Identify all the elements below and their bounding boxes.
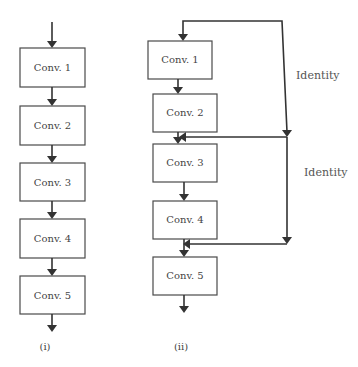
plain-block-2-label: Conv. 2 bbox=[34, 120, 71, 131]
residual-caption: (ii) bbox=[174, 341, 188, 352]
identity-label-1: Identity bbox=[296, 69, 340, 82]
arrow-3-4-head-icon bbox=[47, 212, 57, 219]
residual-network: Conv. 1 Conv. 2 Conv. 3 Conv. 4 Conv. 5 … bbox=[148, 21, 348, 352]
identity-label-2: Identity bbox=[304, 166, 348, 179]
res-output-arrow-head-icon bbox=[179, 306, 189, 313]
plain-block-3-label: Conv. 3 bbox=[34, 177, 71, 188]
identity-skip-1-down-head-icon bbox=[282, 130, 292, 137]
output-arrow-head-icon bbox=[47, 325, 57, 332]
arrow-4-5-head-icon bbox=[47, 269, 57, 276]
plain-caption: (i) bbox=[39, 341, 50, 352]
input-arrow-head-icon bbox=[47, 41, 57, 48]
res-arrow-2-3-head-icon bbox=[173, 137, 183, 144]
plain-network: Conv. 1 Conv. 2 Conv. 3 Conv. 4 Conv. 5 … bbox=[20, 22, 85, 352]
residual-block-5-label: Conv. 5 bbox=[166, 270, 203, 281]
residual-block-4-label: Conv. 4 bbox=[166, 214, 203, 225]
cnn-comparison-diagram: Conv. 1 Conv. 2 Conv. 3 Conv. 4 Conv. 5 … bbox=[0, 0, 358, 367]
arrow-2-3-head-icon bbox=[47, 156, 57, 163]
arrow-1-2-head-icon bbox=[47, 99, 57, 106]
plain-block-4-label: Conv. 4 bbox=[34, 233, 71, 244]
res-arrow-1-2-head-icon bbox=[173, 87, 183, 94]
res-arrow-3-4-head-icon bbox=[179, 194, 189, 201]
plain-block-1-label: Conv. 1 bbox=[34, 62, 71, 73]
input-arrow-head-icon-ii bbox=[178, 34, 188, 41]
residual-block-3-label: Conv. 3 bbox=[166, 157, 203, 168]
identity-skip-2-down-head-icon bbox=[282, 237, 292, 244]
residual-block-1-label: Conv. 1 bbox=[161, 54, 198, 65]
res-arrow-4-5-head-icon bbox=[179, 250, 189, 257]
residual-block-2-label: Conv. 2 bbox=[166, 107, 203, 118]
plain-block-5-label: Conv. 5 bbox=[34, 290, 71, 301]
